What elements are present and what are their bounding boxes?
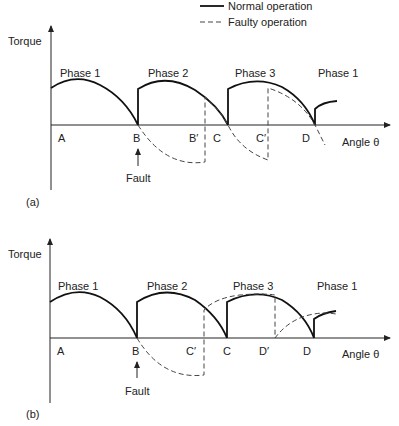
panel-a: Torque Angle θ A B B′ C C′ D Phase 1 Pha… <box>8 26 390 208</box>
phase-label: Phase 1 <box>318 67 358 79</box>
normal-curve <box>50 292 336 338</box>
panel-caption: (b) <box>26 408 39 420</box>
phase-label: Phase 3 <box>233 280 273 292</box>
point-label-A: A <box>58 132 66 144</box>
point-label-C: C <box>213 132 221 144</box>
point-label-D: D <box>302 132 310 144</box>
point-label-A: A <box>57 345 65 357</box>
panel-b: Torque Angle θ A B C′ C D′ D Phase 1 Pha… <box>8 239 390 420</box>
point-label-D-prime: D′ <box>259 345 269 357</box>
fault-label: Fault <box>125 385 149 397</box>
point-label-B: B <box>133 132 140 144</box>
legend-normal-label: Normal operation <box>228 0 312 12</box>
torque-fault-diagram: Normal operation Faulty operation Torque… <box>0 0 399 426</box>
legend-faulty-label: Faulty operation <box>228 16 307 28</box>
phase-label: Phase 2 <box>148 67 188 79</box>
fault-label: Fault <box>126 172 150 184</box>
panel-caption: (a) <box>26 196 39 208</box>
phase-label: Phase 1 <box>58 280 98 292</box>
phase-label: Phase 1 <box>60 67 100 79</box>
point-label-C-prime: C′ <box>256 132 266 144</box>
point-label-C-prime: C′ <box>186 345 196 357</box>
point-label-C: C <box>223 345 231 357</box>
normal-curve <box>51 79 337 125</box>
phase-label: Phase 1 <box>317 280 357 292</box>
phase-label: Phase 3 <box>235 67 275 79</box>
x-axis-label: Angle θ <box>342 348 379 360</box>
point-label-D: D <box>303 345 311 357</box>
x-axis-label: Angle θ <box>342 136 379 148</box>
point-label-B: B <box>132 345 139 357</box>
phase-label: Phase 2 <box>147 280 187 292</box>
faulty-curve <box>137 294 336 376</box>
y-axis-label: Torque <box>8 248 42 260</box>
point-label-B-prime: B′ <box>189 132 198 144</box>
y-axis-label: Torque <box>8 35 42 47</box>
legend: Normal operation Faulty operation <box>200 0 312 28</box>
